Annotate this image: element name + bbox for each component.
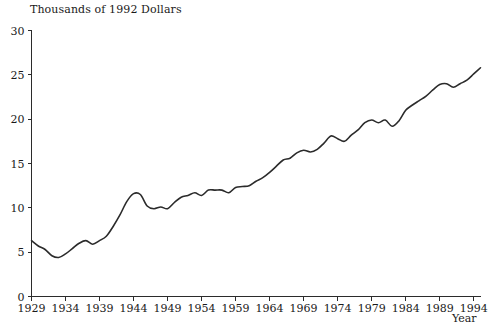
- x-tick-label: 1964: [256, 302, 284, 315]
- y-tick-label: 5: [18, 246, 25, 259]
- x-tick-label: 1969: [290, 302, 318, 315]
- x-tick-label: 1989: [426, 302, 454, 315]
- x-tick-label: 1979: [358, 302, 386, 315]
- chart-plot-svg: 051015202530 192919341939194419491954195…: [0, 0, 493, 334]
- x-tick-label: 1944: [120, 302, 148, 315]
- x-tick-label: 1949: [154, 302, 182, 315]
- y-tick-label: 20: [11, 113, 25, 126]
- data-series-line: [32, 68, 481, 258]
- x-tick-label: 1929: [18, 302, 46, 315]
- x-tick-label: 1959: [222, 302, 250, 315]
- y-tick-label: 15: [11, 158, 25, 171]
- y-tick-label: 25: [11, 69, 25, 82]
- x-tick-label: 1934: [52, 302, 80, 315]
- x-tick-label: 1984: [392, 302, 420, 315]
- x-tick-label: 1974: [324, 302, 352, 315]
- y-tick-label: 10: [11, 202, 25, 215]
- year-axis: 1929193419391944194919541959196419691974…: [18, 297, 488, 315]
- data-series-group: [32, 68, 481, 258]
- chart-container: Thousands of 1992 Dollars Year 051015202…: [0, 0, 493, 334]
- x-tick-label: 1994: [460, 302, 488, 315]
- x-tick-label: 1954: [188, 302, 216, 315]
- value-axis: 051015202530: [11, 25, 32, 304]
- x-tick-label: 1939: [86, 302, 114, 315]
- y-tick-label: 30: [11, 25, 25, 38]
